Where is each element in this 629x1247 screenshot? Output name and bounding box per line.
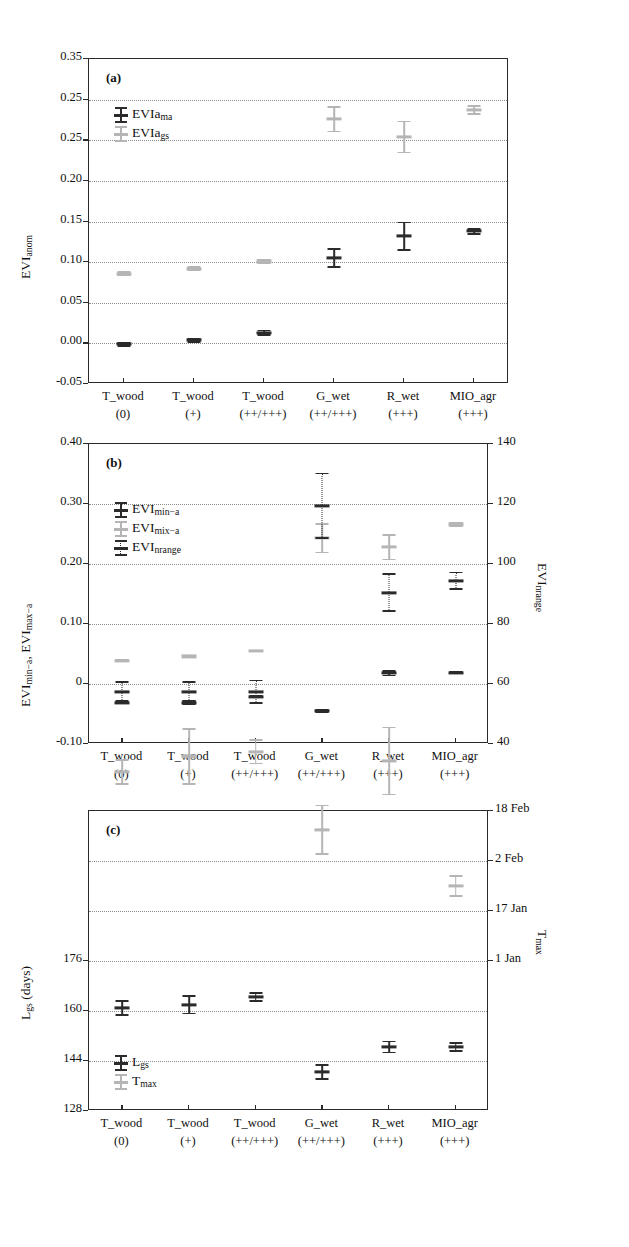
legend-label: EVImix−a [132, 520, 179, 536]
x-axis-category-label: G_wet [293, 389, 373, 404]
gridline [89, 222, 507, 223]
y-tick-mark [83, 443, 88, 444]
y-tick-label-right: 1 Jan [495, 951, 521, 966]
x-tick-mark [333, 378, 334, 383]
error-bar-evi-mix-a [447, 522, 465, 527]
error-bar-evi-nrange [180, 681, 198, 702]
legend-label: EVImin−a [132, 501, 179, 517]
error-bar-cap [398, 249, 411, 251]
error-bar-cap [449, 1042, 462, 1044]
y-tick-mark [83, 139, 88, 140]
y-tick-mark-right [488, 443, 493, 444]
error-bar-cap [116, 1014, 129, 1016]
error-bar-cap [249, 702, 262, 704]
error-bar-evi-mix-a [180, 655, 198, 657]
data-point-marker [117, 343, 132, 346]
data-point-marker [397, 235, 412, 238]
y-axis-title-right: Tmax [534, 930, 550, 955]
y-tick-mark [83, 261, 88, 262]
legend-symbol-evia-gs [114, 125, 128, 143]
error-bar-cap [468, 233, 481, 235]
y-tick-mark-right [488, 743, 493, 744]
error-bar-cap [249, 1000, 262, 1002]
x-tick-mark [473, 378, 474, 383]
error-bar-evia-gs [185, 266, 203, 271]
panel-label: (b) [106, 455, 122, 471]
error-bar-evi-mix-a [113, 659, 131, 661]
error-bar-cap [328, 266, 341, 268]
figure-root: -0.050.000.050.100.150.200.250.250.35EVI… [0, 0, 629, 1247]
error-bar-evia-gs [465, 105, 483, 115]
x-axis-level-label: (+++) [363, 407, 443, 422]
x-axis-level-label: (+) [153, 407, 233, 422]
error-bar-t-max [247, 739, 265, 764]
data-point-marker [187, 339, 202, 342]
data-point-marker [115, 659, 130, 662]
plot-area-b [88, 443, 488, 743]
error-bar-evi-min-a [380, 670, 398, 676]
y-tick-label-right: 17 Jan [495, 901, 527, 916]
data-point-marker [187, 267, 202, 270]
y-tick-label: 128 [24, 1101, 82, 1116]
error-bar-cap [328, 106, 341, 108]
error-bar-cap [383, 534, 396, 536]
y-tick-mark [83, 960, 88, 961]
data-point-marker [248, 690, 263, 693]
error-bar-l-gs [313, 1064, 331, 1080]
y-tick-label: 0.00 [24, 333, 82, 348]
y-tick-mark [83, 58, 88, 59]
error-bar-evi-nrange [313, 473, 331, 539]
error-bar-cap [398, 152, 411, 154]
y-tick-mark-right [488, 910, 493, 911]
legend-symbol-evi-min-a [114, 501, 128, 519]
gridline [89, 343, 507, 344]
error-bar-t-max [180, 728, 198, 784]
gridline [89, 861, 487, 862]
error-bar-l-gs [380, 1041, 398, 1054]
error-bar-cap [468, 105, 481, 107]
x-tick-mark [123, 378, 124, 383]
data-point-marker [117, 272, 132, 275]
y-tick-label: 0.05 [24, 293, 82, 308]
error-bar-cap [316, 552, 329, 554]
data-point-marker [115, 770, 130, 773]
error-bar-l-gs [113, 1000, 131, 1016]
data-point-marker [115, 1006, 130, 1009]
error-bar-evi-nrange [113, 681, 131, 702]
y-tick-mark [83, 383, 88, 384]
y-tick-label: 144 [24, 1051, 82, 1066]
data-point-marker [315, 709, 330, 712]
x-tick-mark [188, 1105, 189, 1110]
error-bar-cap [116, 700, 129, 702]
legend-label: EVInrange [132, 539, 181, 555]
legend-symbol-evi-mix-a [114, 520, 128, 538]
error-bar-cap [398, 121, 411, 123]
y-tick-label: 0.20 [24, 554, 82, 569]
error-bar-l-gs [247, 992, 265, 1001]
error-bar-evia-ma [185, 338, 203, 343]
error-bar-cap [316, 805, 329, 807]
gridline [89, 911, 487, 912]
error-bar-evi-mix-a [380, 534, 398, 560]
error-bar-cap [183, 700, 196, 702]
panel-label: (a) [106, 70, 121, 86]
y-axis-title-right: EVInrange [534, 563, 550, 612]
error-bar-cap [249, 763, 262, 765]
y-tick-label: 0.40 [24, 434, 82, 449]
gridline [89, 961, 487, 962]
data-point-marker [448, 579, 463, 582]
x-axis-level-label: (++/+++) [223, 407, 303, 422]
x-axis-category-label: T_wood [223, 389, 303, 404]
data-point-marker [257, 331, 272, 334]
error-bar-l-gs [180, 995, 198, 1014]
error-bar-cap [449, 1050, 462, 1052]
error-bar-evia-ma [395, 222, 413, 251]
y-tick-mark [83, 302, 88, 303]
data-point-marker [467, 230, 482, 233]
y-tick-mark [83, 623, 88, 624]
x-tick-mark [121, 1105, 122, 1110]
data-point-marker [448, 1045, 463, 1048]
data-point-marker [448, 671, 463, 674]
error-bar-t-max [313, 805, 331, 855]
y-tick-label-right: 18 Feb [495, 801, 529, 816]
